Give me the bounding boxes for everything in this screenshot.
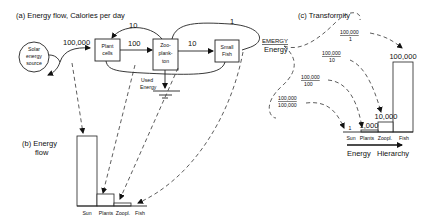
- emergy-label: EMERGY: [262, 38, 288, 44]
- b-cat-sun: Sun: [82, 210, 91, 216]
- flow-sun-plants: 100,000: [63, 38, 90, 47]
- fish-label-2: Fish: [222, 51, 232, 57]
- source-label-3: source: [26, 60, 42, 66]
- panel-b-energy-flow-chart: (b) Energy flow Sun Plants Zoopl. Fish: [22, 136, 147, 216]
- fraction-1-den: 1: [349, 36, 352, 42]
- panel-b-title-1: (b) Energy: [22, 139, 57, 148]
- b-cat-plants: Plants: [99, 210, 114, 216]
- fraction-1-num: 100,000: [340, 29, 359, 35]
- bar-fish: [393, 62, 413, 132]
- used-energy-label-1: Used: [141, 77, 153, 83]
- c-cat-plants: Plants: [360, 135, 375, 141]
- dashed-links-a-to-b: [72, 52, 243, 203]
- b-cat-fish: Fish: [135, 210, 145, 216]
- plant-label-1: Plant: [102, 43, 114, 49]
- value-fish: 100,000: [389, 52, 416, 61]
- value-plants: 1,000: [360, 121, 379, 130]
- c-cat-sun: Sun: [346, 135, 355, 141]
- bar-sun: [77, 136, 97, 206]
- panel-c-transformity: (c) Transformity EMERGY Energy 100,000 1…: [262, 11, 417, 158]
- fraction-3-den: 100: [304, 81, 313, 87]
- fish-label-1: Small: [221, 44, 234, 50]
- source-label-1: Solar: [28, 46, 40, 52]
- flow-plants-zoo: 100: [128, 39, 141, 48]
- used-energy-label-2: Energy: [140, 84, 157, 90]
- fraction-2: 100,000 10: [322, 50, 341, 63]
- b-cat-zoopl: Zoopl.: [116, 210, 130, 216]
- flow-zoo-feedback: 10: [129, 21, 137, 30]
- fraction-2-den: 10: [329, 57, 335, 63]
- zoo-label-3: ton: [162, 58, 169, 64]
- fraction-4: 100,000 100,000: [278, 95, 297, 108]
- panel-c-title: (c) Transformity: [298, 11, 350, 20]
- fraction-3-num: 100,000: [301, 74, 320, 80]
- solar-energy-source: Solar energy source: [19, 42, 49, 72]
- c-cat-zoopl: Zoopl.: [378, 135, 392, 141]
- fraction-4-num: 100,000: [278, 95, 297, 101]
- sun-reflected-arrow: [48, 62, 60, 75]
- bar-plants: [97, 194, 114, 206]
- panel-a-title: (a) Energy flow, Calories per day: [16, 11, 125, 20]
- energy-hierarchy-diagram: (a) Energy flow, Calories per day Solar …: [0, 0, 435, 224]
- hierarchy-label-hierarchy: Hierarchy: [377, 149, 409, 158]
- flow-zoo-fish: 10: [188, 39, 196, 48]
- c-cat-fish: Fish: [399, 135, 409, 141]
- panel-a-energy-flow: (a) Energy flow, Calories per day Solar …: [16, 11, 260, 98]
- panel-b-title-2: flow: [35, 148, 49, 157]
- fraction-4-den: 100,000: [278, 102, 297, 108]
- sun-to-plants-arrow: [49, 48, 90, 62]
- flow-fish-feedback: 1: [230, 17, 234, 26]
- plant-label-2: cells: [102, 50, 113, 56]
- bar-zoopl-c: [378, 122, 393, 132]
- fraction-2-num: 100,000: [322, 50, 341, 56]
- fraction-1: 100,000 1: [340, 29, 359, 42]
- zoo-label-1: Zoo-: [160, 42, 171, 48]
- value-sun: 1: [349, 125, 352, 131]
- fraction-3: 100,000 100: [301, 74, 320, 87]
- zoo-label-2: plank-: [158, 50, 172, 56]
- source-label-2: energy: [26, 53, 42, 59]
- value-zoopl: 10,000: [375, 112, 398, 121]
- hierarchy-label-energy: Energy: [347, 149, 371, 158]
